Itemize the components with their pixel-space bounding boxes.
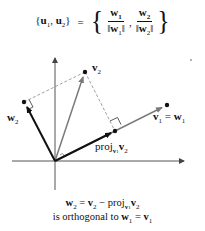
v2-endpoint-dot — [83, 70, 87, 74]
label-v1-equals-w1: v1 = w1 — [153, 110, 185, 125]
v1-endpoint-dot — [165, 103, 169, 107]
artifact-speck — [190, 59, 192, 61]
origin-angle-arc — [60, 154, 64, 156]
dashed-v2-to-proj — [85, 72, 115, 131]
caption-line-2: is orthogonal to w1 = v1 — [0, 210, 205, 228]
label-projection: projv1v2 — [95, 140, 128, 155]
w2-vector — [27, 107, 55, 161]
w2-endpoint-dot — [22, 100, 26, 104]
proj-endpoint-dot — [113, 129, 117, 133]
right-angle-marker-proj — [110, 118, 121, 125]
label-w2: w2 — [7, 111, 18, 126]
right-angle-marker-w2 — [28, 100, 33, 110]
label-v2: v2 — [92, 61, 101, 76]
